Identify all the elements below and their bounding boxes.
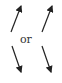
arrow-down-right-icon <box>12 46 21 72</box>
arrow-up-right-icon <box>42 6 52 32</box>
arrow-up-right-icon <box>11 6 21 32</box>
arrow-down-right-icon <box>42 46 51 72</box>
or-label: or <box>20 34 32 46</box>
